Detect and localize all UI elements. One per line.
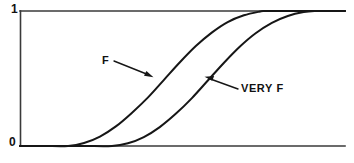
f-arrowhead-icon: [144, 71, 154, 77]
curve-f: [20, 11, 345, 146]
f-leader-line: [114, 61, 149, 75]
curve-label-f: F: [102, 55, 109, 66]
curve-very-f: [20, 11, 345, 146]
curve-label-very-f: VERY F: [241, 83, 284, 94]
y-axis-max-label: 1: [11, 3, 18, 15]
fuzzy-membership-figure: 1 0 F VERY F: [0, 0, 354, 163]
y-axis-min-label: 0: [9, 136, 16, 148]
plot-area: [0, 0, 354, 163]
very-f-leader-line: [209, 79, 238, 90]
